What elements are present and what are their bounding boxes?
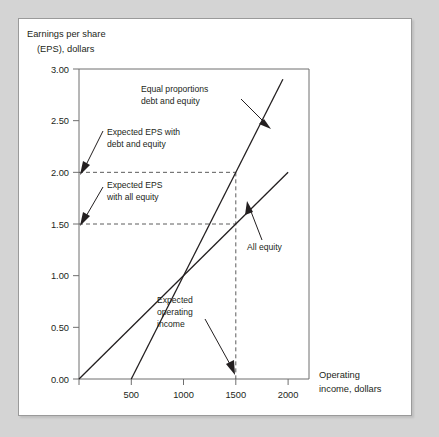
x-axis-tick-labels: 500 1000 1500 2000 bbox=[124, 390, 299, 400]
annotation-expected-eps-all-equity-line2: with all equity bbox=[106, 192, 159, 202]
annotation-equal-proportions-line2: debt and equity bbox=[141, 96, 200, 106]
figure-card: 3.00 2.50 2.00 1.50 1.00 0.50 0.00 500 1… bbox=[18, 18, 412, 416]
eps-vs-operating-income-chart: 3.00 2.50 2.00 1.50 1.00 0.50 0.00 500 1… bbox=[19, 19, 411, 415]
annotation-expected-operating-income: Expected operating income bbox=[157, 295, 235, 375]
x-axis-title: Operating income, dollars bbox=[319, 370, 382, 394]
annotation-expected-eps-debt-equity-leader bbox=[85, 131, 103, 167]
annotation-equal-proportions-line1: Equal proportions bbox=[141, 84, 208, 94]
x-axis-title-line2: income, dollars bbox=[319, 384, 382, 394]
annotation-expected-eps-debt-equity-arrowhead bbox=[80, 161, 90, 175]
x-tick-label: 1500 bbox=[225, 390, 246, 400]
annotation-expected-operating-income-leader bbox=[205, 319, 231, 366]
annotation-equal-proportions-arrowhead bbox=[259, 119, 271, 129]
y-axis-tick-labels: 3.00 2.50 2.00 1.50 1.00 0.50 0.00 bbox=[51, 65, 69, 385]
annotation-all-equity: All equity bbox=[245, 201, 283, 252]
annotation-expected-eps-all-equity-line1: Expected EPS bbox=[107, 180, 163, 190]
annotation-expected-eps-all-equity: Expected EPS with all equity bbox=[80, 180, 163, 226]
annotation-expected-operating-income-line3: income bbox=[157, 319, 185, 329]
annotation-expected-eps-debt-equity-line2: debt and equity bbox=[107, 139, 166, 149]
x-tick-label: 2000 bbox=[278, 390, 299, 400]
y-tick-label: 2.50 bbox=[51, 116, 69, 126]
y-tick-label: 3.00 bbox=[51, 65, 69, 75]
annotation-all-equity-leader bbox=[250, 209, 262, 240]
y-axis-title: Earnings per share (EPS), dollars bbox=[27, 29, 106, 54]
y-axis-ticks bbox=[73, 69, 79, 379]
annotation-all-equity-label: All equity bbox=[247, 242, 283, 252]
x-axis-title-line1: Operating bbox=[319, 370, 360, 380]
y-tick-label: 2.00 bbox=[51, 168, 69, 178]
guide-lines bbox=[79, 172, 236, 379]
y-axis-title-line2: (EPS), dollars bbox=[37, 44, 95, 54]
y-tick-label: 0.50 bbox=[51, 323, 69, 333]
annotation-equal-proportions-leader bbox=[241, 99, 266, 124]
x-tick-label: 1000 bbox=[173, 390, 194, 400]
data-series bbox=[79, 79, 288, 379]
y-tick-label: 1.00 bbox=[51, 271, 69, 281]
annotation-expected-operating-income-line1: Expected bbox=[157, 295, 193, 305]
y-tick-label: 0.00 bbox=[51, 375, 69, 385]
annotation-expected-eps-debt-equity-line1: Expected EPS with bbox=[107, 127, 180, 137]
x-tick-label: 500 bbox=[124, 390, 140, 400]
annotation-expected-operating-income-arrowhead bbox=[226, 360, 235, 375]
annotation-expected-eps-debt-equity: Expected EPS with debt and equity bbox=[80, 127, 180, 175]
annotation-equal-proportions: Equal proportions debt and equity bbox=[141, 84, 271, 129]
y-axis-title-line1: Earnings per share bbox=[27, 29, 106, 39]
annotation-expected-eps-all-equity-leader bbox=[85, 187, 103, 218]
x-axis-ticks bbox=[79, 379, 288, 385]
annotation-expected-operating-income-line2: operating bbox=[157, 307, 193, 317]
y-tick-label: 1.50 bbox=[51, 220, 69, 230]
